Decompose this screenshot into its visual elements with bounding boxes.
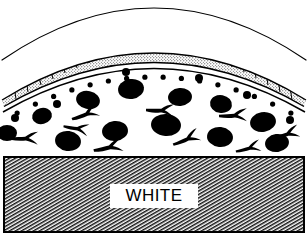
- stroma-dot: [179, 76, 184, 81]
- outer-arc: [2, 8, 306, 60]
- stroma-blob: [195, 74, 203, 82]
- stroma-dot: [288, 110, 293, 115]
- stroma-blob: [54, 129, 83, 152]
- stroma-dot: [51, 94, 56, 99]
- stroma-dot: [161, 75, 166, 80]
- stroma-dot: [142, 75, 147, 80]
- cell-separators: [14, 35, 292, 100]
- epithelial-cell-band: [2, 35, 306, 107]
- stroma-blob: [209, 93, 234, 115]
- stroma-blob: [248, 110, 277, 134]
- stroma-dot: [69, 87, 74, 92]
- stroma-blob: [101, 120, 129, 143]
- stroma-blob: [122, 68, 130, 76]
- stroma-dot: [234, 87, 239, 92]
- stroma-dot: [215, 82, 220, 87]
- stroma-blob: [286, 116, 294, 124]
- substrate-block: WHITE: [4, 157, 304, 232]
- stroma-blob: [243, 91, 251, 99]
- stroma-blob: [206, 126, 234, 149]
- substrate-label: WHITE: [126, 186, 183, 205]
- stroma-blob: [11, 114, 19, 122]
- tissue-cross-section-figure: WHITE: [0, 0, 308, 245]
- figure-canvas: WHITE: [0, 0, 308, 245]
- stroma-blob: [167, 87, 192, 107]
- stroma-dot: [33, 101, 38, 106]
- stroma-dot: [106, 78, 111, 83]
- stroma-blob: [150, 113, 181, 137]
- stroma-blob: [53, 100, 61, 108]
- stroma-dot: [252, 94, 257, 99]
- stroma-dot: [270, 101, 275, 106]
- stroma-blob: [30, 106, 53, 126]
- branched-cell: [235, 139, 262, 153]
- stroma-blob: [74, 89, 101, 112]
- stroma-blob: [117, 77, 146, 100]
- stroma-dot: [88, 82, 93, 87]
